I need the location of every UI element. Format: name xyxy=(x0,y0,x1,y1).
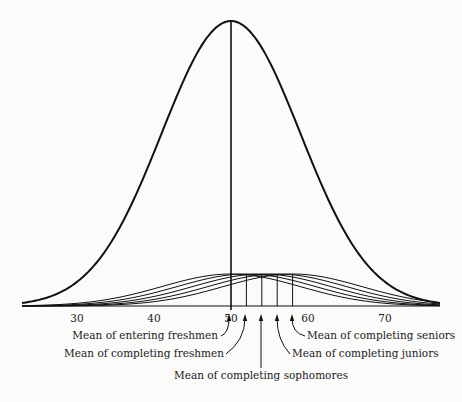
x-axis-ticks: 3040506070 xyxy=(70,312,391,324)
distribution-curves xyxy=(22,21,440,310)
x-tick-label: 60 xyxy=(301,312,314,324)
x-tick-label: 30 xyxy=(70,312,83,324)
annotation-label: Mean of completing seniors xyxy=(307,329,455,341)
arrowhead-icon xyxy=(243,314,247,321)
x-tick-label: 40 xyxy=(147,312,160,324)
annotation-label: Mean of completing freshmen xyxy=(64,347,224,359)
normal-distribution-chart: 3040506070 Mean of entering freshmenMean… xyxy=(0,0,462,402)
x-tick-label: 70 xyxy=(378,312,391,324)
annotation-label: Mean of completing sophomores xyxy=(174,369,348,381)
arrowhead-icon xyxy=(290,314,294,321)
annotation-arrow xyxy=(277,318,290,354)
x-tick-label: 50 xyxy=(224,312,237,324)
annotation-label: Mean of completing juniors xyxy=(292,347,439,359)
arrowhead-icon xyxy=(259,314,263,321)
annotation-label: Mean of entering freshmen xyxy=(72,329,218,341)
arrowhead-icon xyxy=(275,314,279,321)
mean-annotations: Mean of entering freshmenMean of complet… xyxy=(64,314,455,381)
